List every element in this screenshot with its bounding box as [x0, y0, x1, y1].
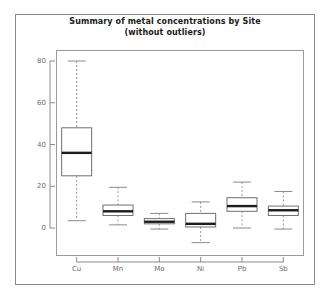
y-tick-label: 0 [20, 224, 46, 232]
y-tick-label: 60 [20, 99, 46, 107]
chart-title-line-2: (without outliers) [16, 27, 314, 38]
y-tick-label: 20 [20, 182, 46, 190]
y-tick-label: 40 [20, 141, 46, 149]
y-tick-label: 80 [20, 57, 46, 65]
chart-title: Summary of metal concentrations by Site … [16, 16, 314, 38]
x-tick-label-sb: Sb [263, 265, 303, 273]
x-tick-label-pb: Pb [222, 265, 262, 273]
x-tick-label-cu: Cu [57, 265, 97, 273]
chart-title-line-1: Summary of metal concentrations by Site [16, 16, 314, 27]
x-tick-label-mn: Mn [98, 265, 138, 273]
plot-panel [56, 50, 304, 256]
boxplot-figure: Summary of metal concentrations by Site … [0, 0, 331, 299]
x-tick-label-ni: Ni [181, 265, 221, 273]
x-tick-label-mo: Mo [139, 265, 179, 273]
